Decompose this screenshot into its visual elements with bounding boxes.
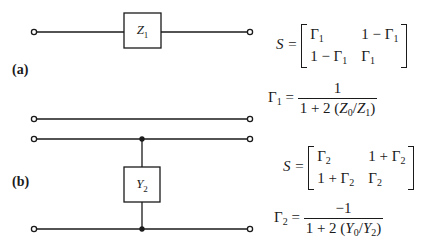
terminal-a-right: [247, 29, 252, 34]
panel-label-a: (a): [12, 62, 28, 78]
s-matrix-a: S = Γ1 1 − Γ1 1 − Γ1 Γ1: [276, 24, 407, 68]
terminal-b-left-top: [31, 136, 36, 141]
terminal-a-left: [31, 29, 36, 34]
gamma1-equation: Γ1 = 1 1 + 2 (Z0/Z1): [268, 80, 377, 118]
s21-b: 1 + Γ2: [317, 170, 354, 188]
s12-a: 1 − Γ1: [361, 26, 398, 44]
y2-label: Y2: [124, 176, 160, 194]
terminal-b-left-bottom: [31, 226, 36, 231]
terminal-b-right-bottom: [247, 226, 252, 231]
panel-label-b: (b): [12, 174, 29, 190]
s11-a: Γ1: [310, 26, 347, 44]
terminal-b-right-top: [247, 136, 252, 141]
s-matrix-b: S = Γ2 1 + Γ2 1 + Γ2 Γ2: [283, 146, 414, 190]
s22-a: Γ1: [361, 48, 398, 66]
gamma2-equation: Γ2 = −1 1 + 2 (Y0/Y2): [274, 200, 383, 238]
junction-dot-bottom: [140, 227, 144, 231]
s12-b: 1 + Γ2: [368, 148, 405, 166]
s21-a: 1 − Γ1: [310, 48, 347, 66]
z1-label: Z1: [124, 22, 161, 40]
shunt-circuit-b: [31, 116, 252, 231]
junction-dot-top: [140, 137, 144, 141]
s11-b: Γ2: [317, 148, 354, 166]
s22-b: Γ2: [368, 170, 405, 188]
